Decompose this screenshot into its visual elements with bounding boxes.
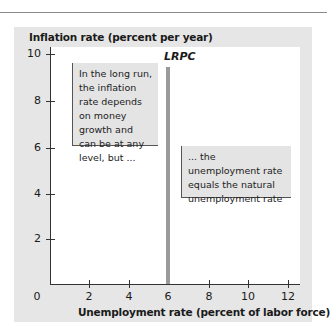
- y-tick-10: [46, 54, 55, 55]
- x-tick-2: [89, 280, 90, 288]
- x-axis-title: Unemployment rate (percent of labor forc…: [78, 306, 330, 318]
- y-tick-6: [46, 148, 55, 149]
- x-tick-12: [288, 280, 289, 288]
- lrpc-line: [166, 67, 170, 284]
- y-tick-label: 4: [25, 187, 41, 200]
- y-axis-title: Inflation rate (percent per year): [29, 31, 213, 43]
- lrpc-label: LRPC: [164, 50, 196, 63]
- x-tick-label: 12: [278, 290, 298, 303]
- x-tick-4: [129, 280, 130, 288]
- y-tick-4: [46, 194, 55, 195]
- y-tick-8: [46, 101, 55, 102]
- x-tick-label: 8: [199, 290, 219, 303]
- y-tick-label: 2: [25, 232, 41, 245]
- x-tick-label: 10: [238, 290, 258, 303]
- y-tick-2: [46, 239, 55, 240]
- y-tick-label: 10: [25, 47, 41, 60]
- x-tick-label: 2: [79, 290, 99, 303]
- y-tick-label: 6: [25, 141, 41, 154]
- y-tick-label: 8: [25, 94, 41, 107]
- x-axis: [50, 284, 300, 285]
- top-divider: [0, 12, 327, 13]
- x-tick-8: [209, 280, 210, 288]
- x-tick-label: 6: [158, 290, 178, 303]
- y-axis: [50, 47, 51, 285]
- x-tick-label: 4: [119, 290, 139, 303]
- annotation-natural-rate: ... the unemployment rate equals the nat…: [181, 146, 291, 198]
- annotation-long-run: In the long run, the inflation rate depe…: [72, 63, 158, 146]
- origin-label: 0: [27, 290, 47, 303]
- x-tick-10: [248, 280, 249, 288]
